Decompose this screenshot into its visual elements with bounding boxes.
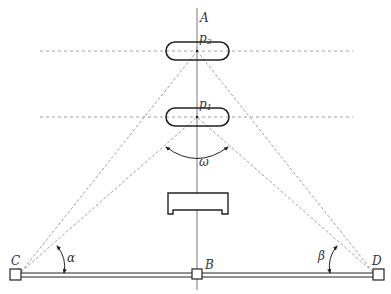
sightline-d-p2 xyxy=(197,51,373,272)
beta-angle-arc xyxy=(329,246,337,273)
label-station-b: B xyxy=(204,258,214,272)
label-p2: p2 xyxy=(199,31,212,46)
p2-center-point xyxy=(196,50,198,52)
label-omega: ω xyxy=(199,155,209,169)
label-p1: p1 xyxy=(199,97,212,112)
station-b-square xyxy=(192,269,202,279)
label-alpha: α xyxy=(67,251,75,265)
p1-center-point xyxy=(196,116,198,118)
alpha-angle-arc xyxy=(57,246,65,273)
bracket-obstacle xyxy=(168,193,228,214)
label-station-c: C xyxy=(11,254,20,268)
geometry-diagram: A p2 p1 ω α β C B D xyxy=(0,0,391,294)
label-axis-a: A xyxy=(199,11,209,25)
sightline-c-p2 xyxy=(21,51,197,272)
label-beta: β xyxy=(317,249,325,263)
station-d-square xyxy=(373,269,384,280)
station-c-square xyxy=(10,269,21,280)
label-station-d: D xyxy=(371,254,382,268)
